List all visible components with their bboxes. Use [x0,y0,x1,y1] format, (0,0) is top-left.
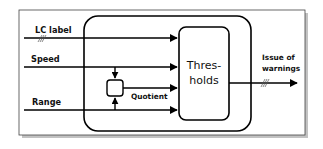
thresholds-label-line2: holds [189,74,219,87]
range-text: Range [32,97,62,107]
speed-text: Speed [31,54,60,64]
output-label-line1: Issue of [262,53,295,62]
thresholds-box: Thres- holds [179,27,229,120]
output-label-line2: warnings [262,64,301,73]
thresholds-label-line1: Thres- [186,59,221,72]
quotient-text: Quotient [131,92,168,101]
lc-label-text: LC label [35,25,72,35]
diagram-canvas: Thres- holds LC label Speed Range Quotie… [0,0,323,149]
